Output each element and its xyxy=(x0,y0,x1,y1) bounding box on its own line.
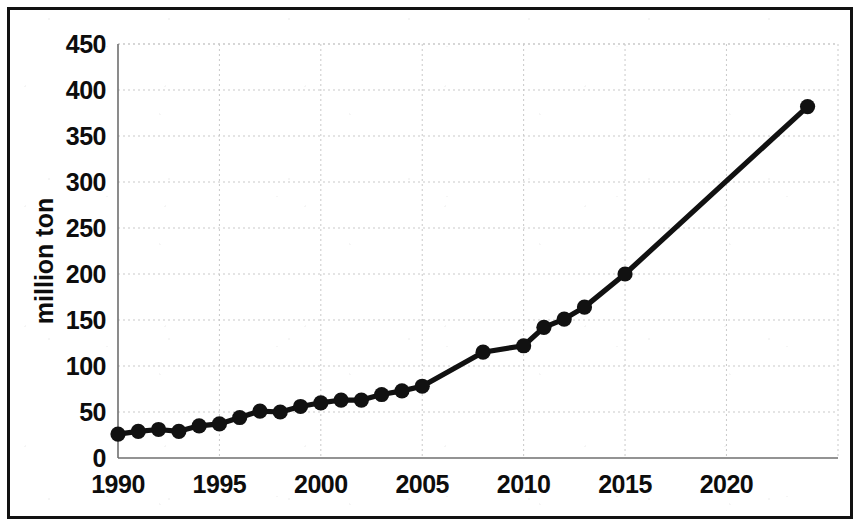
y-axis-tick-label: 200 xyxy=(66,260,106,289)
gridlines xyxy=(118,44,838,458)
y-axis-tick-label: 150 xyxy=(66,306,106,335)
data-point-marker xyxy=(475,345,490,360)
y-axis-tick-label: 100 xyxy=(66,352,106,381)
series-markers xyxy=(110,99,815,442)
x-axis-tick-label: 2005 xyxy=(395,470,449,499)
data-point-marker xyxy=(800,99,815,114)
y-axis-tick-label: 400 xyxy=(66,76,106,105)
y-axis-title: million ton xyxy=(30,198,59,324)
y-axis-tick-label: 450 xyxy=(66,30,106,59)
data-point-marker xyxy=(617,266,632,281)
data-point-marker xyxy=(192,418,207,433)
data-point-marker xyxy=(212,416,227,431)
data-line xyxy=(118,107,808,435)
data-point-marker xyxy=(293,399,308,414)
data-point-marker xyxy=(171,424,186,439)
data-point-marker xyxy=(334,392,349,407)
y-axis-tick-label: 350 xyxy=(66,122,106,151)
data-point-marker xyxy=(415,379,430,394)
y-axis-tick-label: 300 xyxy=(66,168,106,197)
line-chart-plot xyxy=(0,0,862,528)
x-axis-tick-label: 2010 xyxy=(497,470,551,499)
x-axis-tick-label: 2015 xyxy=(598,470,652,499)
y-axis-tick-label: 250 xyxy=(66,214,106,243)
data-point-marker xyxy=(516,338,531,353)
data-point-marker xyxy=(110,426,125,441)
data-point-marker xyxy=(232,410,247,425)
x-axis-tick-label: 1995 xyxy=(193,470,247,499)
data-point-marker xyxy=(151,422,166,437)
y-axis-tick-label: 0 xyxy=(93,444,106,473)
data-point-marker xyxy=(313,395,328,410)
data-point-marker xyxy=(536,320,551,335)
data-point-marker xyxy=(273,404,288,419)
data-point-marker xyxy=(252,403,267,418)
data-point-marker xyxy=(374,387,389,402)
data-point-marker xyxy=(577,300,592,315)
series-line xyxy=(118,107,808,435)
chart-figure: 050100150200250300350400450 199019952000… xyxy=(0,0,862,528)
x-axis-tick-label: 2020 xyxy=(700,470,754,499)
x-axis-tick-label: 2000 xyxy=(294,470,348,499)
data-point-marker xyxy=(131,424,146,439)
data-point-marker xyxy=(394,383,409,398)
x-axis-tick-label: 1990 xyxy=(91,470,145,499)
data-point-marker xyxy=(557,311,572,326)
axis-spines xyxy=(118,44,838,458)
data-point-marker xyxy=(354,392,369,407)
y-axis-tick-label: 50 xyxy=(79,398,106,427)
